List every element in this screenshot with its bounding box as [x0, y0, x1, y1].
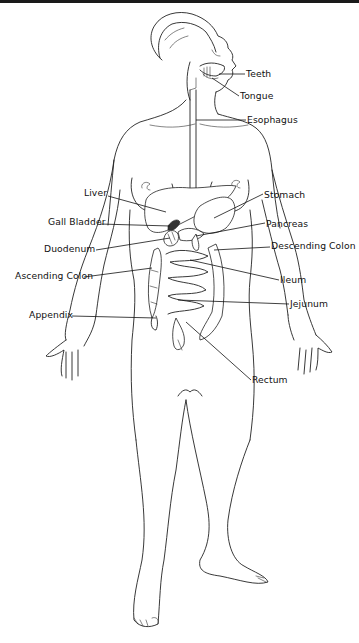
label-appendix: Appendix [29, 310, 73, 319]
label-esophagus: Esophagus [247, 115, 298, 124]
label-duodenum: Duodenum [44, 244, 95, 253]
rectum-organ [173, 318, 185, 350]
label-pancreas: Pancreas [266, 219, 308, 228]
label-stomach: Stomach [264, 190, 305, 199]
label-gall-bladder: Gall Bladder [48, 217, 106, 226]
label-ascending-colon: Ascending Colon [15, 271, 93, 280]
label-descending-colon: Descending Colon [271, 241, 356, 250]
label-jejunum: Jejunum [290, 299, 328, 308]
small-intestine-organ [166, 250, 208, 314]
body-outline-figure [0, 0, 359, 643]
head [151, 12, 236, 200]
label-tongue: Tongue [240, 91, 273, 100]
torso [65, 100, 316, 440]
label-ileum: Ileum [280, 275, 306, 284]
ascending-colon-organ [148, 248, 161, 318]
legs [134, 390, 268, 627]
label-liver: Liver [84, 188, 107, 197]
label-teeth: Teeth [246, 69, 271, 78]
label-rectum: Rectum [252, 375, 288, 384]
